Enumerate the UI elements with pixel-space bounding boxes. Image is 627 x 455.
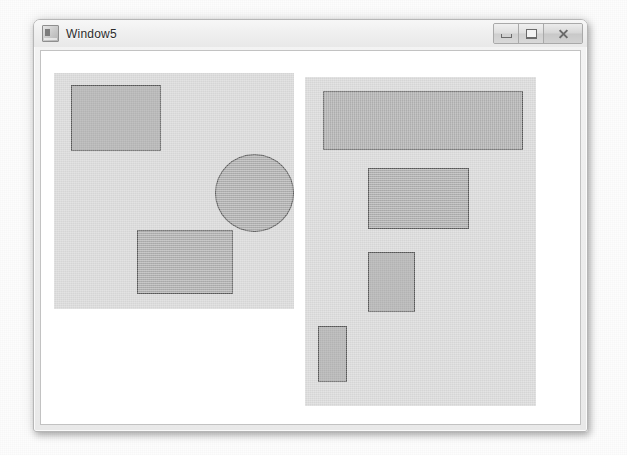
maximize-icon (526, 29, 537, 39)
right-panel (305, 77, 536, 406)
minimize-button[interactable] (494, 24, 519, 43)
shape-rectangle-3[interactable] (323, 91, 523, 150)
shape-rectangle-6[interactable] (318, 326, 347, 382)
left-panel (54, 73, 294, 309)
shape-rectangle-2[interactable] (137, 230, 233, 294)
title-bar[interactable]: Window5 (34, 20, 587, 47)
close-icon (558, 29, 569, 39)
drawing-canvas (41, 51, 580, 424)
application-icon (42, 25, 59, 42)
application-window: Window5 (33, 19, 588, 432)
shape-rectangle-1[interactable] (71, 85, 161, 151)
shape-circle-1[interactable] (215, 154, 294, 232)
minimize-icon (501, 34, 512, 38)
maximize-button[interactable] (519, 24, 544, 43)
window-title: Window5 (66, 27, 117, 41)
caption-button-group (493, 23, 583, 44)
shape-rectangle-4[interactable] (368, 168, 469, 229)
close-button[interactable] (544, 24, 582, 43)
shape-rectangle-5[interactable] (368, 252, 415, 312)
client-area (40, 50, 581, 425)
